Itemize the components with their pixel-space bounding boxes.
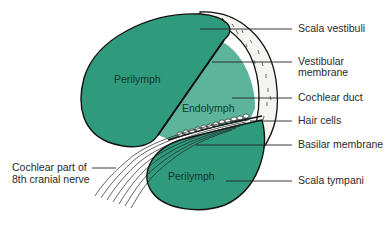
perilymph-upper-label: Perilymph	[114, 73, 161, 85]
label-scala-vestibuli: Scala vestibuli	[298, 23, 365, 34]
label-nerve-line-2: 8th cranial nerve	[12, 174, 90, 185]
label-hair-cells: Hair cells	[298, 115, 341, 126]
label-scala-tympani: Scala tympani	[298, 175, 364, 186]
perilymph-lower-label: Perilymph	[168, 170, 215, 182]
endolymph-label: Endolymph	[182, 102, 235, 114]
label-nerve-line-1: Cochlear part of	[12, 162, 87, 173]
label-basilar-membrane: Basilar membrane	[298, 139, 383, 150]
label-vestibular-membrane-2: membrane	[298, 67, 348, 78]
label-cochlear-duct: Cochlear duct	[298, 92, 363, 103]
